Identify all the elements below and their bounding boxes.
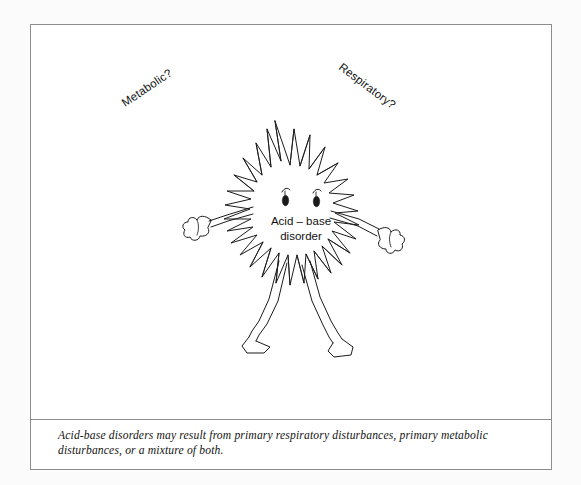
caption-divider — [31, 419, 551, 420]
spiky-body-outline — [224, 121, 359, 285]
figure-caption: Acid-base disorders may result from prim… — [58, 429, 530, 458]
illustration-area: Acid – base disorder Metabolic? Respirat… — [31, 25, 551, 419]
right-leg — [302, 261, 353, 357]
right-eye — [313, 189, 321, 206]
page-backdrop: Acid – base disorder Metabolic? Respirat… — [0, 0, 581, 485]
respiratory-label: Respiratory? — [337, 61, 398, 111]
center-label-line1: Acid – base — [271, 215, 331, 227]
metabolic-label: Metabolic? — [120, 67, 174, 109]
figure-frame: Acid – base disorder Metabolic? Respirat… — [30, 24, 552, 470]
center-label-line2: disorder — [280, 230, 322, 242]
left-leg — [242, 261, 287, 353]
left-eye — [282, 188, 290, 205]
creature-drawing: Acid – base disorder Metabolic? Respirat… — [31, 25, 551, 419]
